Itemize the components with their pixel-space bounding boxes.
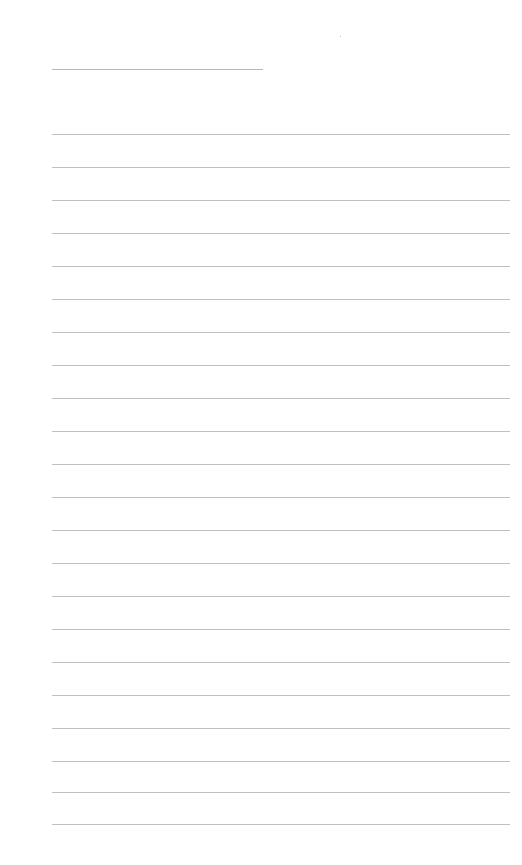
ruled-line [52,761,510,762]
ruled-line [52,792,510,793]
ruled-line [52,497,510,498]
ruled-line [52,332,510,333]
ruled-line [52,200,510,201]
ruled-line [52,530,510,531]
ruled-line [52,629,510,630]
title-write-line [52,69,263,70]
ruled-line [52,431,510,432]
ruled-line [52,365,510,366]
ruled-line [52,299,510,300]
ruled-line [52,134,510,135]
ruled-line [52,824,510,825]
ruled-line [52,728,510,729]
ruled-line [52,167,510,168]
ruled-line [52,233,510,234]
ruled-line [52,662,510,663]
ruled-line [52,398,510,399]
ruled-line [52,563,510,564]
lined-page [0,0,522,865]
ruled-line [52,695,510,696]
ruled-line [52,266,510,267]
ruled-line [52,596,510,597]
paper-speck [340,36,341,37]
ruled-line [52,464,510,465]
